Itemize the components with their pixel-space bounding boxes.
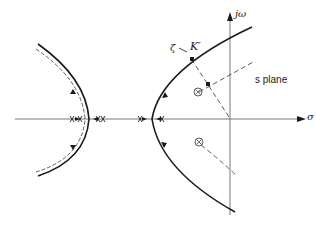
pole-path-lower [201,145,237,176]
right-locus-branch [152,27,252,212]
imag-axis-arrow-icon [227,12,233,21]
gain-point-marker [190,57,194,61]
zero-upper-icon [194,88,202,96]
root-locus-plot [0,0,316,225]
damping-ratio-line [192,60,229,117]
left-locus-arrow-icon [70,89,76,94]
closed-loop-pole-marker [206,82,210,86]
plane-label: s plane [255,74,287,85]
imag-axis-label: jω [235,8,246,19]
zeta-arrow-icon [179,48,187,52]
gain-point-label: K′ [190,40,201,53]
left-locus-branch [38,44,89,176]
left-locus-arrow-icon [70,145,76,150]
imag-axis [227,12,233,215]
left-locus-dashed [36,49,85,172]
real-axis-arrow-icon [297,116,306,122]
zeta-label: ζ [170,42,175,53]
zero-lower-icon [195,138,203,146]
pole-path-upper [199,61,255,92]
real-axis-label: σ [307,111,314,122]
